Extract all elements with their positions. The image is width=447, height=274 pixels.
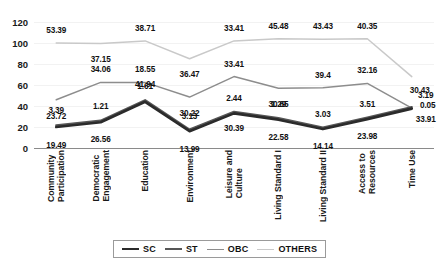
x-tick-label-line: Education	[140, 150, 150, 192]
x-tick-label: Education	[130, 150, 160, 192]
data-label-obc: 23.72	[46, 111, 66, 120]
data-label-obc: 30.65	[268, 100, 288, 109]
data-label-obc: 34.06	[91, 65, 111, 74]
data-label-sc: 23.98	[357, 132, 377, 141]
x-tick-label-line: Engagement	[101, 150, 111, 202]
data-label-st: 0.05	[420, 101, 436, 110]
x-tick-label: CommunityParticipation	[41, 150, 71, 202]
x-tick-label: Access toResources	[352, 150, 382, 194]
legend-item-obc[interactable]: OBC	[207, 244, 249, 254]
data-label-sc: 30.39	[224, 124, 244, 133]
x-tick-label: Living Standard I	[263, 150, 293, 220]
x-tick-label: DemocraticEngagement	[86, 150, 116, 202]
legend-label: SC	[143, 244, 156, 254]
data-label-others: 37.15	[91, 54, 111, 63]
legend-swatch	[122, 248, 139, 250]
legend-swatch	[165, 248, 182, 250]
data-label-st: 1.61	[137, 82, 153, 91]
data-label-sc: 26.56	[91, 135, 111, 144]
data-label-others: 33.41	[224, 23, 244, 32]
data-label-sc: 33.91	[416, 114, 436, 123]
data-label-st: 2.44	[226, 93, 242, 102]
y-tick-label: 20	[17, 122, 28, 133]
data-label-obc: 30.22	[180, 109, 200, 118]
legend-label: OTHERS	[278, 244, 317, 254]
legend-swatch	[207, 249, 224, 250]
y-tick-label: 80	[17, 59, 28, 70]
data-label-others: 53.39	[46, 26, 66, 35]
y-tick-label: 60	[17, 80, 28, 91]
y-tick-label: 40	[17, 101, 28, 112]
plot-area: 19.4926.5641.9413.9930.3922.5814.1423.98…	[34, 22, 434, 148]
data-label-others: 40.35	[357, 21, 377, 30]
legend-label: OBC	[228, 244, 249, 254]
data-label-others: 36.47	[180, 69, 200, 78]
legend-swatch	[257, 249, 274, 250]
data-label-obc: 33.41	[224, 59, 244, 68]
x-tick-label-line: Participation	[56, 150, 66, 202]
legend-label: ST	[186, 244, 198, 254]
data-label-st: 3.51	[360, 99, 376, 108]
line-chart: 020406080100120 19.4926.5641.9413.9930.3…	[0, 0, 447, 274]
data-label-others: 38.71	[135, 23, 155, 32]
data-label-others: 43.43	[313, 22, 333, 31]
x-tick-label-line: Leisure and	[224, 150, 234, 198]
x-tick-label-line: Democratic	[91, 150, 101, 202]
x-tick-label-line: Access to	[357, 150, 367, 194]
x-tick-label-line: Resources	[367, 150, 377, 194]
x-tick-label-line: Community	[46, 150, 56, 202]
x-tick-label-line: Living Standard I	[273, 150, 283, 220]
data-label-st: 1.21	[93, 101, 109, 110]
x-tick-label-line: Culture	[234, 150, 244, 198]
legend-item-st[interactable]: ST	[165, 244, 198, 254]
legend-item-sc[interactable]: SC	[122, 244, 156, 254]
data-label-obc: 18.55	[135, 65, 155, 74]
legend-item-others[interactable]: OTHERS	[257, 244, 317, 254]
data-label-sc: 22.58	[268, 132, 288, 141]
data-label-obc: 39.4	[315, 70, 331, 79]
x-axis: CommunityParticipationDemocraticEngageme…	[34, 150, 434, 232]
x-tick-label: Living Standard II	[308, 150, 338, 222]
data-label-others: 45.48	[268, 21, 288, 30]
chart-legend: SCSTOBCOTHERS	[113, 240, 326, 258]
x-tick-label: Leisure andCulture	[219, 150, 249, 198]
x-tick-label: Environment	[175, 150, 205, 203]
x-tick-label-line: Time Use	[407, 150, 417, 188]
y-tick-label: 100	[12, 38, 28, 49]
x-tick-label-line: Environment	[185, 150, 195, 203]
data-label-obc: 32.16	[357, 66, 377, 75]
data-label-st: 3.03	[315, 109, 331, 118]
y-tick-label: 0	[23, 143, 28, 154]
x-tick-label: Time Use	[397, 150, 427, 188]
y-axis: 020406080100120	[0, 22, 32, 148]
x-tick-label-line: Living Standard II	[318, 150, 328, 222]
y-tick-label: 120	[12, 17, 28, 28]
data-label-others: 30.43	[410, 85, 430, 94]
data-label-sc: 19.49	[46, 141, 66, 150]
